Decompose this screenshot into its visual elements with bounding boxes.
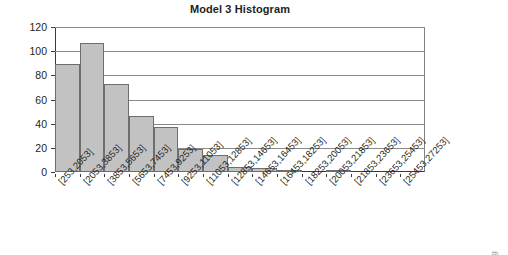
x-tick-mark: [400, 174, 401, 177]
y-tick-mark: [51, 124, 55, 125]
copyright-credit: © Cengage Learning: [489, 251, 498, 255]
y-tick-label: 0: [7, 166, 47, 178]
x-tick-mark: [252, 174, 253, 177]
x-tick-mark: [55, 174, 56, 177]
y-tick-label: 120: [7, 21, 47, 33]
y-tick-mark: [51, 27, 55, 28]
y-tick-mark: [51, 148, 55, 149]
x-tick-mark: [228, 174, 229, 177]
y-tick-label: 60: [7, 94, 47, 106]
y-tick-mark: [51, 172, 55, 173]
y-tick-mark: [51, 51, 55, 52]
y-tick-mark: [51, 75, 55, 76]
x-tick-mark: [376, 174, 377, 177]
y-tick-label: 100: [7, 45, 47, 57]
y-tick-label: 40: [7, 118, 47, 130]
histogram-figure: Model 3 Histogram 020406080100120 [253,2…: [0, 0, 508, 255]
x-tick-mark: [178, 174, 179, 177]
x-tick-mark: [80, 174, 81, 177]
x-tick-mark: [104, 174, 105, 177]
x-axis-labels: [253,2053][2053,3853][3853,5653][5653,74…: [55, 174, 508, 255]
y-tick-mark: [51, 100, 55, 101]
y-tick-label: 20: [7, 142, 47, 154]
chart-title: Model 3 Histogram: [55, 3, 425, 15]
x-tick-mark: [326, 174, 327, 177]
x-tick-mark: [351, 174, 352, 177]
y-tick-label: 80: [7, 69, 47, 81]
x-tick-mark: [277, 174, 278, 177]
x-tick-mark: [154, 174, 155, 177]
x-tick-mark: [302, 174, 303, 177]
x-tick-mark: [129, 174, 130, 177]
x-tick-mark: [203, 174, 204, 177]
